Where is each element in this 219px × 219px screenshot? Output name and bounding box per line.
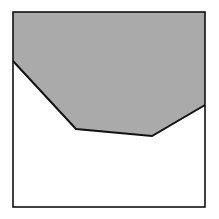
diagram-canvas: [0, 0, 219, 219]
diagram-svg: [0, 0, 219, 219]
shaded-region: [13, 12, 205, 136]
